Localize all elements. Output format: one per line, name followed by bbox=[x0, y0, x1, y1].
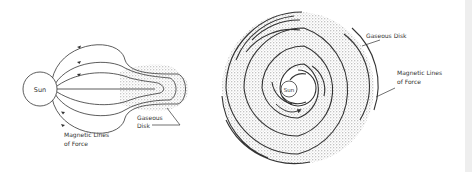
figure: Sun Gaseous Disk Magnetic Lines of Force… bbox=[0, 0, 472, 172]
right-diagram: Sun Gaseous Disk Magnetic Lines of Force bbox=[222, 12, 442, 164]
disk-label: Gaseous Disk bbox=[366, 32, 407, 39]
left-diagram: Sun Gaseous Disk Magnetic Lines of Force bbox=[23, 45, 189, 147]
disk-label-2: Disk bbox=[137, 122, 150, 129]
lines-label-2: of Force bbox=[397, 78, 421, 85]
arrowheads bbox=[61, 46, 81, 128]
lines-label: Magnetic Lines bbox=[64, 131, 109, 139]
lines-label: Magnetic Lines bbox=[397, 69, 442, 77]
page-edge bbox=[465, 0, 472, 172]
disk-label: Gaseous bbox=[137, 114, 163, 121]
lines-label-2: of Force bbox=[64, 140, 88, 147]
sun-label: Sun bbox=[284, 87, 295, 93]
lines-pointer-line bbox=[376, 88, 395, 97]
sun-label: Sun bbox=[34, 86, 46, 94]
